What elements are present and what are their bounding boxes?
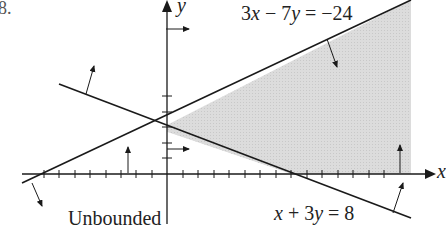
y-axis-label: y <box>177 0 186 17</box>
arrow-icon <box>86 66 94 94</box>
y-axis <box>162 0 172 224</box>
equation-label-x-3y: x + 3y = 8 <box>274 202 354 225</box>
problem-number: 8. <box>0 0 12 19</box>
region-label: Unbounded <box>68 207 161 230</box>
arrow-icon <box>32 183 42 206</box>
x-axis-label: x <box>437 160 446 183</box>
arrow-icon <box>393 183 403 213</box>
equation-label-3x-7y: 3x − 7y = −24 <box>241 2 353 25</box>
